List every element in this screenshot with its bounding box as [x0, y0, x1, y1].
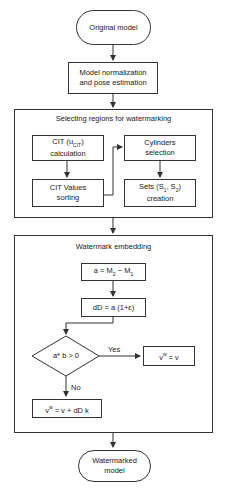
- cit-calculation-process: CIT (uCIT) calculation: [32, 135, 104, 161]
- selecting-regions-title: Selecting regions for watermarking: [15, 114, 212, 123]
- cit-sort-line2: sorting: [50, 193, 86, 203]
- cit-calc-line2: calculation: [50, 149, 85, 159]
- vw-equals-v: vw = v: [159, 349, 179, 363]
- watermark-embedding-title: Watermark embedding: [15, 242, 212, 251]
- watermarked-model-terminal: Watermarked model: [78, 450, 151, 482]
- original-model-label: Original model: [89, 23, 137, 33]
- vw-equals-v-process: vw = v: [143, 346, 195, 366]
- sets-line2: creation: [139, 194, 181, 204]
- decision-label: a* b > 0: [40, 351, 92, 360]
- watermarked-line1: Watermarked: [92, 456, 137, 466]
- vw-update-process: vw = v + dD k: [32, 399, 102, 418]
- yes-label: Yes: [108, 345, 120, 354]
- original-model-terminal: Original model: [76, 10, 151, 45]
- cit-calc-line1: CIT (uCIT): [50, 137, 85, 150]
- normalization-process: Model normalization and pose estimation: [68, 62, 158, 94]
- a-equation-process: a = M2 − M1: [81, 263, 146, 281]
- vw-update-equation: vw = v + dD k: [45, 402, 89, 416]
- cylinders-line2: selection: [144, 148, 175, 158]
- no-label: No: [71, 383, 81, 392]
- watermarked-line2: model: [92, 466, 137, 476]
- cit-sort-line1: CIT Values: [50, 183, 86, 193]
- normalization-line2: and pose estimation: [79, 78, 146, 88]
- dD-equation: dD = a (1+ε): [93, 303, 134, 313]
- sets-creation-process: Sets (S1, S2) creation: [124, 179, 196, 207]
- dD-equation-process: dD = a (1+ε): [81, 298, 146, 317]
- cylinders-line1: Cylinders: [144, 138, 175, 148]
- cit-sorting-process: CIT Values sorting: [32, 179, 104, 207]
- cylinders-selection-process: Cylinders selection: [124, 135, 196, 161]
- sets-line1: Sets (S1, S2): [139, 182, 181, 195]
- a-equation: a = M2 − M1: [94, 266, 133, 279]
- normalization-line1: Model normalization: [79, 68, 146, 78]
